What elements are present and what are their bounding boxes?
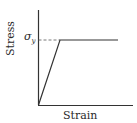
sigma-symbol: σ bbox=[24, 30, 32, 43]
yield-stress-label: σy bbox=[24, 30, 35, 45]
yield-subscript: y bbox=[32, 37, 36, 45]
plot-area bbox=[0, 0, 137, 123]
x-axis-label: Strain bbox=[63, 109, 97, 122]
y-axis-label: Stress bbox=[4, 21, 17, 56]
stress-strain-chart: Stress Strain σy bbox=[0, 0, 137, 123]
stress-strain-curve bbox=[39, 40, 119, 105]
